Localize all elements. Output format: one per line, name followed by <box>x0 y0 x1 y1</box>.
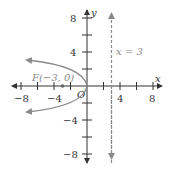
directrix-label: x = 3 <box>116 46 143 57</box>
focus-label: F(−3, 0) <box>31 72 74 83</box>
parabola-diagram: −8 −4 4 8 8 4 −4 −8 x y O x = 3 F(−3, 0) <box>0 0 169 172</box>
y-tick-label: −4 <box>63 115 78 126</box>
x-axis-label: x <box>155 73 161 84</box>
y-tick-label: 8 <box>70 13 76 24</box>
y-axis-label: y <box>90 7 97 18</box>
y-tick-label: 4 <box>70 47 76 58</box>
x-tick-label: −8 <box>14 93 29 104</box>
x-tick-label: 4 <box>117 93 123 104</box>
focus-point <box>61 84 65 88</box>
y-tick-label: −8 <box>63 149 78 160</box>
x-tick-label: 8 <box>149 93 155 104</box>
x-tick-label: −4 <box>47 93 62 104</box>
